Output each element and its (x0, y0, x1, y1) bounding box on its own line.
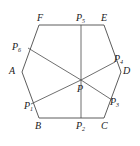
segment-p-p4 (81, 62, 115, 80)
point-label-subscript: 2 (82, 126, 85, 132)
hexagon-edges-group (22, 25, 121, 118)
point-label-p3: P3 (110, 97, 119, 108)
vertex-label-e: E (101, 13, 107, 23)
point-label-p2: P2 (76, 121, 85, 132)
point-label-subscript: 6 (18, 47, 21, 53)
hexagon-diagram-svg (0, 0, 140, 146)
segment-p-p1 (31, 80, 81, 104)
point-label-subscript: 1 (30, 106, 33, 112)
point-label-p4: P4 (114, 54, 123, 65)
vertex-label-b: B (35, 121, 41, 131)
segment-p-p3 (81, 80, 112, 100)
segment-p-p6 (28, 48, 81, 80)
hexagon-edge-cd (104, 72, 121, 118)
vertex-label-c: C (101, 121, 108, 131)
vertex-label-f: F (37, 13, 43, 23)
geometry-figure: ABCDEFP1P2P3P4P5P6P (0, 0, 140, 146)
point-label-p5: P5 (76, 13, 85, 24)
cevian-segments-group (28, 25, 115, 118)
point-label-p1: P1 (24, 101, 33, 112)
vertex-label-a: A (9, 66, 15, 76)
hexagon-edge-fa (22, 25, 39, 72)
point-label-subscript: 4 (120, 59, 123, 65)
vertex-label-d: D (123, 66, 130, 76)
point-label-p6: P6 (12, 42, 21, 53)
point-label-subscript: 3 (116, 102, 119, 108)
point-label-subscript: 5 (82, 18, 85, 24)
center-point-label-p: P (77, 84, 83, 94)
